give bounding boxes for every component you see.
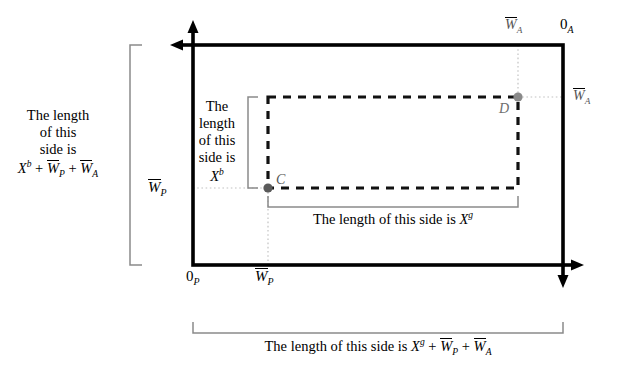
point-d-marker [513,92,522,101]
caption-inner-v-line4: side is [186,149,248,166]
arrow-up-icon [188,20,199,33]
label-origin-a: 0A [560,16,574,36]
formula-w1-sub: P [59,168,65,179]
caption-inner-v-line2: length [186,115,248,132]
label-wbar-a-right: WA [573,88,590,107]
caption-bottom-x: X [411,338,420,354]
origin-a-subscript: A [568,24,574,35]
caption-left-vertical: The length of this side is Xb + WP + WA [0,107,128,179]
formula-plus-1: + [35,160,43,176]
point-c-text: C [276,172,285,187]
arrow-right-icon [571,260,584,271]
formula-w1: W [47,160,59,176]
figure-canvas: The length of this side is Xb + WP + WA … [0,0,626,370]
caption-inner-v-line1: The [186,98,248,115]
point-d-text: D [499,101,509,116]
wbar-a-top-subscript: A [517,25,523,35]
label-origin-p: 0P [186,268,200,288]
point-c-marker [263,183,272,192]
formula-w2-sub: A [92,168,98,179]
caption-bottom-w2: W [474,338,486,354]
wbar-p-left-subscript: P [161,187,167,198]
caption-bottom-x-sup: g [420,336,425,347]
bracket-bottom-outer [193,322,563,333]
origin-p-subscript: P [194,276,200,287]
origin-a-glyph: 0 [560,16,568,32]
arrow-down-icon [558,275,569,288]
caption-bottom-w2-sub: A [486,346,492,357]
caption-left-line1: The length [0,107,128,124]
caption-bottom: The length of this side is Xg + WP + WA [193,336,563,357]
wbar-p-left-glyph: W [148,179,161,195]
wbar-a-right-glyph: W [573,88,585,103]
formula-w2: W [80,160,92,176]
wbar-p-bottom-subscript: P [268,276,274,287]
caption-inner-horizontal: The length of this side is Xg [268,209,518,228]
formula-x: X [18,160,27,176]
formula-x-sup: b [27,158,32,169]
origin-p-glyph: 0 [186,268,194,284]
caption-inner-v-formula: Xb [186,166,248,185]
caption-bottom-w1: W [440,338,452,354]
label-point-d: D [499,101,509,118]
wbar-p-bottom-glyph: W [255,268,268,284]
caption-bottom-text: The length of this side is [265,338,408,354]
figure-vector-layer [0,0,626,370]
caption-bottom-plus-1: + [428,338,436,354]
caption-bottom-w1-sub: P [452,346,458,357]
label-wbar-a-top: WA [505,17,522,36]
label-wbar-p-bottom: WP [255,268,274,288]
formula-plus-2: + [68,160,76,176]
label-wbar-p-left: WP [148,179,167,199]
caption-bottom-plus-2: + [462,338,470,354]
wbar-a-top-glyph: W [505,17,517,32]
bracket-inner-vertical [248,97,258,188]
caption-left-formula: Xb + WP + WA [0,158,128,179]
formula-inner-x: X [210,168,219,184]
dashed-allocation-rect [268,97,518,188]
caption-left-line2: of this [0,124,128,141]
caption-inner-h-text: The length of this side is [313,211,456,227]
formula-inner-x-sup: b [219,166,224,177]
wbar-a-right-subscript: A [585,96,591,106]
caption-inner-h-x: X [459,211,468,227]
label-point-c: C [276,172,285,189]
caption-inner-h-x-sup: g [468,209,473,220]
bracket-inner-horizontal [268,196,518,207]
caption-inner-vertical: The length of this side is Xb [186,98,248,185]
bracket-left-outer [130,45,142,265]
caption-inner-v-line3: of this [186,132,248,149]
caption-left-line3: side is [0,141,128,158]
arrow-left-icon [170,40,183,51]
